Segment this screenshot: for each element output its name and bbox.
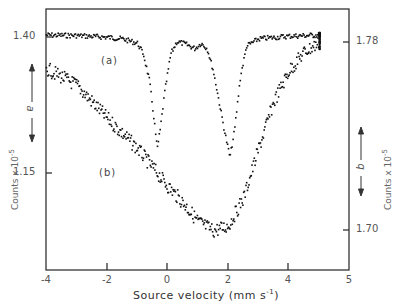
x-tick-label: -4 bbox=[41, 274, 51, 285]
x-tick-label: 5 bbox=[346, 274, 352, 285]
x-tick-label: 0 bbox=[164, 274, 170, 285]
arrow-b-label: b bbox=[355, 163, 366, 169]
y-axis-ticks bbox=[46, 37, 349, 230]
y-right-axis-title-exp: -5 bbox=[381, 149, 389, 156]
series-b-points bbox=[46, 35, 321, 238]
y-right-axis-title: Counts x 10-5 bbox=[381, 149, 393, 210]
y-left-axis-title-exp: -5 bbox=[8, 149, 16, 156]
x-axis-title-text: Source velocity (mm s bbox=[133, 289, 266, 302]
series-b-label: (b) bbox=[99, 167, 116, 178]
x-tick-label: 4 bbox=[285, 274, 291, 285]
y-left-axis-title-text: Counts x 10 bbox=[10, 156, 20, 210]
x-axis-title-end: ) bbox=[274, 289, 279, 302]
series-a-label: (a) bbox=[101, 55, 118, 66]
x-tick-label: -2 bbox=[102, 274, 112, 285]
arrow-b-icon bbox=[359, 127, 364, 196]
series-a-points bbox=[46, 32, 321, 156]
arrow-a-icon bbox=[30, 64, 35, 142]
y-left-tick-label: 1.40 bbox=[13, 30, 35, 41]
x-axis-title-exp: -1 bbox=[266, 288, 274, 296]
y-left-axis-title: Counts x 10-5 bbox=[8, 149, 20, 210]
arrow-a-label: a bbox=[25, 105, 36, 111]
x-axis-ticks bbox=[107, 263, 288, 270]
x-axis-title: Source velocity (mm s-1) bbox=[133, 288, 279, 302]
y-right-tick-label: 1.70 bbox=[356, 223, 378, 234]
mossbauer-spectrum-chart bbox=[0, 0, 402, 306]
y-right-axis-title-text: Counts x 10 bbox=[383, 156, 393, 210]
x-tick-label: 2 bbox=[225, 274, 231, 285]
y-right-tick-label: 1.78 bbox=[356, 35, 378, 46]
